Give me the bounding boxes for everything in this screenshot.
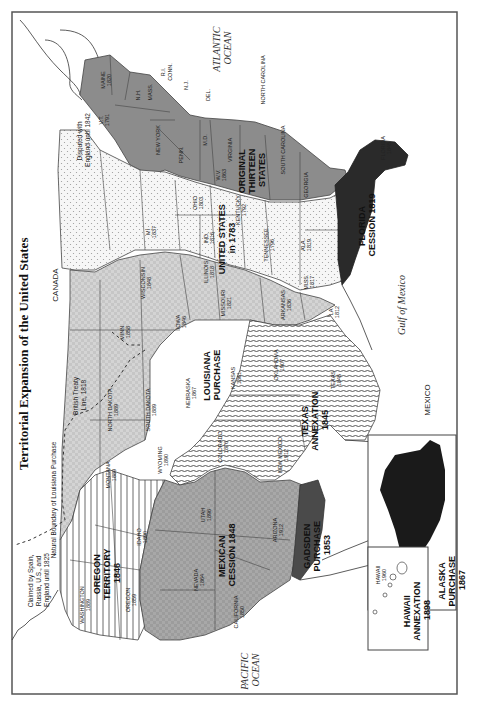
disputed-note: Disputed with England until 1842	[76, 113, 92, 167]
state-alabama: ALA.1819	[300, 239, 312, 252]
state-ri: R.I.	[160, 67, 166, 76]
canada-label: CANADA	[51, 268, 60, 302]
pacific-ocean-label: PACIFIC OCEAN	[239, 650, 261, 691]
state-conn: CONN.	[167, 63, 173, 81]
state-iowa: IOWA1846	[175, 314, 187, 329]
state-del: DEL.	[205, 88, 211, 101]
state-mississippi: MISS.1817	[303, 274, 315, 289]
alaska-purchase-label: ALASKA PURCHASE 1867	[437, 553, 467, 606]
state-utah: UTAH1896	[200, 508, 212, 523]
british-treaty-note: British Treaty Line, 1818	[72, 375, 87, 415]
state-south-carolina: SOUTH CAROLINA	[280, 125, 286, 174]
gulf-of-mexico-label: Gulf of Mexico	[396, 275, 407, 335]
gadsden-purchase-label: GADSDEN PURCHASE 1853	[302, 518, 332, 571]
state-nebraska: NEBRASKA1867	[185, 378, 197, 408]
state-ohio: OHIO1803	[192, 195, 204, 210]
state-mass: MASS.	[147, 83, 153, 101]
state-north-carolina: NORTH CAROLINA	[260, 55, 266, 104]
territorial-expansion-map: Territorial Expansion of the United Stat…	[0, 0, 487, 711]
mexico-label: MEXICO	[423, 384, 432, 416]
state-md: M.D.	[202, 134, 208, 146]
state-new-york: NEW YORK	[155, 125, 161, 155]
state-nj: N.J.	[183, 80, 189, 90]
louisiana-purchase-label: LOUISIANA PURCHASE	[202, 349, 222, 401]
state-wyoming: WYOMING1890	[157, 446, 169, 474]
claimed-note: Claimed by Spain, Russia, U.S., and Engl…	[27, 553, 51, 608]
state-georgia: GEORGIA	[303, 172, 309, 198]
state-south-dakota: SOUTH DAKOTA1889	[145, 388, 157, 431]
original-thirteen-label: ORIGINAL THIRTEEN STATES	[237, 146, 267, 194]
state-west-virginia: W.V.1863	[215, 169, 227, 181]
state-indiana: IND.1816	[203, 232, 215, 244]
state-penn: PENN.	[178, 146, 184, 163]
state-nh: N.H.	[135, 89, 141, 100]
map-title: Territorial Expansion of the United Stat…	[16, 238, 31, 470]
atlantic-ocean-label: ATLANTIC OCEAN	[211, 24, 233, 73]
state-vt: V.T.1791	[98, 114, 110, 126]
state-minnesota: MINN.1858	[119, 324, 131, 340]
state-virginia: VIRGINIA	[227, 138, 233, 162]
natural-boundary-note: Natural Boundary of Louisiana Purchase	[50, 441, 58, 558]
